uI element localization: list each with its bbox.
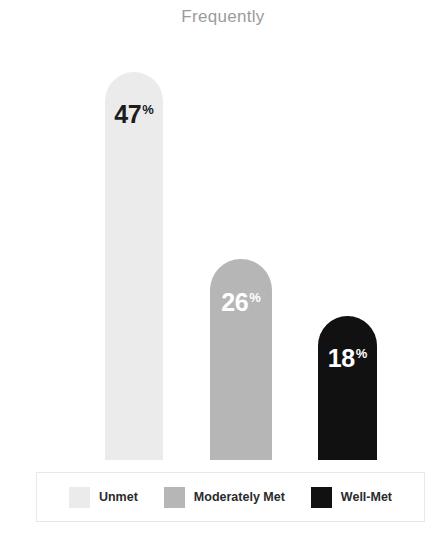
legend-item-unmet[interactable]: Unmet	[69, 487, 138, 508]
bar-well-met-shape	[318, 316, 377, 460]
bar-moderately-met[interactable]: 26%	[210, 259, 272, 460]
legend-label-well-met: Well-Met	[341, 490, 392, 504]
bar-moderately-met-value: 26%	[210, 290, 272, 315]
bar-moderately-met-value-percent: %	[249, 290, 261, 305]
chart-legend: Unmet Moderately Met Well-Met	[36, 472, 425, 522]
plot-area: 47% 26% 18%	[0, 0, 446, 460]
bar-well-met-value-percent: %	[356, 346, 368, 361]
legend-swatch-well-met-icon	[311, 487, 332, 508]
legend-label-moderately-met: Moderately Met	[194, 490, 285, 504]
legend-swatch-moderately-met-icon	[164, 487, 185, 508]
bar-unmet-shape	[105, 72, 163, 460]
legend-item-well-met[interactable]: Well-Met	[311, 487, 392, 508]
bar-well-met[interactable]: 18%	[318, 316, 377, 460]
legend-swatch-unmet-icon	[69, 487, 90, 508]
legend-label-unmet: Unmet	[99, 490, 138, 504]
bar-well-met-value: 18%	[318, 346, 377, 371]
bar-unmet-value-number: 47	[114, 100, 141, 128]
legend-item-moderately-met[interactable]: Moderately Met	[164, 487, 285, 508]
bar-well-met-value-number: 18	[328, 344, 355, 372]
bar-unmet-value: 47%	[105, 102, 163, 127]
bar-chart: Frequently 47% 26% 18% Unmet	[0, 0, 446, 553]
bar-moderately-met-value-number: 26	[221, 288, 248, 316]
bar-unmet[interactable]: 47%	[105, 72, 163, 460]
bar-unmet-value-percent: %	[142, 102, 154, 117]
